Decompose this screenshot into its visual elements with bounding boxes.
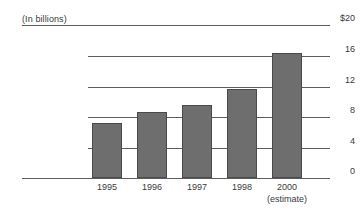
x-tick-label-2000: 2000 [259, 182, 315, 192]
y-tick-label-20: $20 [340, 13, 355, 23]
bar-slot-1995 [90, 25, 135, 178]
plot-area [88, 25, 330, 178]
units-caption: (In billions) [22, 14, 67, 24]
y-tick-label-0: 0 [350, 166, 355, 176]
bar-slot-1997 [180, 25, 225, 178]
bar-slot-1996 [135, 25, 180, 178]
x-tick-sublabel-estimate: (estimate) [259, 194, 315, 204]
bar-slot-2000 [270, 25, 315, 178]
bar-slot-1998 [225, 25, 270, 178]
y-tick-label-4: 4 [350, 136, 355, 146]
bar-2000 [272, 53, 302, 178]
bar-1995 [92, 123, 122, 178]
bar-1997 [182, 105, 212, 178]
y-tick-label-12: 12 [345, 75, 355, 85]
bar-chart-figure: (In billions) $20 16 12 8 4 0 1995 1996 … [0, 0, 363, 220]
y-tick-label-16: 16 [345, 44, 355, 54]
bar-1996 [137, 112, 167, 178]
bar-1998 [227, 89, 257, 179]
y-tick-label-8: 8 [350, 105, 355, 115]
x-axis-baseline [22, 178, 330, 179]
